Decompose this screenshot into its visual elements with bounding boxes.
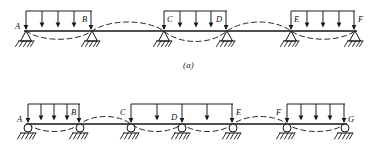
support-a-panel-a	[16, 31, 35, 47]
support-b-panel-b	[70, 124, 89, 139]
node-label-a-panel-b: A	[16, 114, 23, 124]
node-label-d-panel-a: D	[215, 14, 223, 24]
beam-diagram-panel-a: A B C D E F (a)	[0, 0, 377, 84]
node-label-b-panel-a: B	[82, 14, 87, 24]
node-label-f-panel-b: F	[275, 107, 282, 117]
support-g-panel-b	[335, 124, 354, 139]
distributed-load-span-fg-b	[285, 104, 347, 123]
node-label-f-panel-a: F	[357, 14, 364, 24]
support-c-panel-a	[154, 31, 173, 47]
support-e-panel-a	[281, 31, 300, 47]
node-label-e-panel-b: E	[235, 107, 242, 117]
support-a-panel-b	[18, 124, 37, 139]
node-label-d-panel-b: D	[170, 112, 178, 122]
panel-caption-a: (a)	[0, 60, 377, 70]
support-e-panel-b	[223, 124, 242, 139]
node-label-c-panel-a: C	[167, 14, 173, 24]
node-label-b-panel-b: B	[71, 107, 76, 117]
node-label-g-panel-b: G	[348, 114, 354, 124]
support-f-panel-b	[277, 124, 296, 139]
beam-diagram-a-svg: A B C D E F	[0, 0, 377, 84]
support-c-panel-b	[121, 124, 140, 139]
distributed-load-span-ce-b	[129, 104, 235, 123]
figure-root: A B C D E F (a)	[0, 0, 377, 168]
support-f-panel-a	[345, 31, 364, 47]
node-label-c-panel-b: C	[120, 107, 126, 117]
support-d-panel-a	[217, 31, 236, 47]
beam-diagram-b-svg: A B C D E F G	[0, 84, 377, 168]
node-label-a-panel-a: A	[14, 21, 21, 31]
support-d-panel-b	[172, 124, 191, 139]
support-b-panel-a	[82, 31, 101, 47]
node-label-e-panel-a: E	[293, 14, 300, 24]
beam-diagram-panel-b: A B C D E F G (b)	[0, 84, 377, 168]
